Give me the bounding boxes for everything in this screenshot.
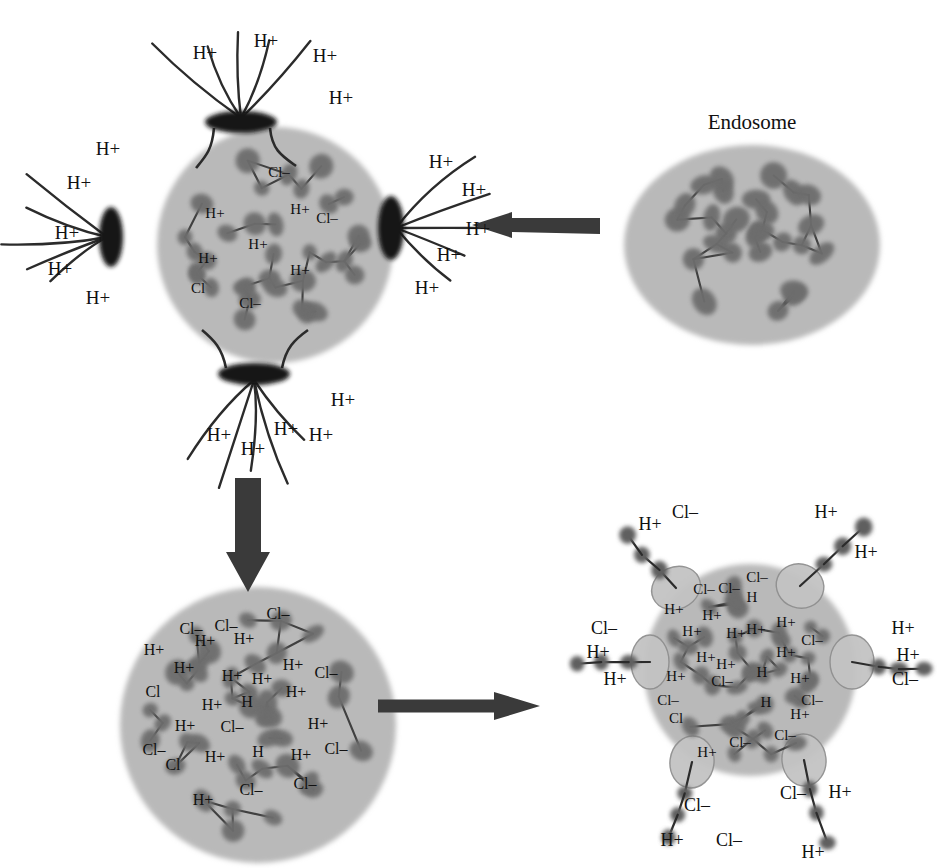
- ion-label-top-left-inner-7: Cl–: [239, 296, 261, 311]
- ion-label-ruptured-inner-10: Cl–: [801, 633, 823, 648]
- ion-label-ruptured-outer-3: H+: [854, 543, 877, 561]
- ion-label-ruptured-outer-7: H+: [891, 619, 914, 637]
- proton-label-top-left-17: H+: [309, 425, 333, 444]
- ion-label-ruptured-inner-19: H: [761, 695, 772, 710]
- ion-label-swollen-10: Cl–: [314, 665, 337, 681]
- ion-label-ruptured-inner-24: Cl–: [774, 728, 796, 743]
- ion-label-swollen-3: H+: [144, 642, 165, 658]
- channel-top-proton-line: [241, 41, 310, 118]
- ion-label-swollen-2: Cl–: [266, 606, 289, 622]
- ion-label-top-left-inner-3: H+: [290, 202, 309, 217]
- ion-label-ruptured-outer-10: Cl–: [684, 796, 710, 814]
- proton-label-top-left-5: H+: [67, 173, 91, 192]
- arrow-swollen-to-ruptured: [378, 692, 540, 720]
- ion-label-ruptured-inner-13: H+: [716, 657, 735, 672]
- ion-label-top-left-inner-6: H+: [290, 263, 309, 278]
- ion-label-ruptured-outer-12: Cl–: [716, 831, 742, 849]
- endosome-title: Endosome: [708, 110, 797, 135]
- ion-label-ruptured-inner-22: H+: [790, 707, 809, 722]
- ion-label-ruptured-outer-8: H+: [896, 646, 919, 664]
- ion-label-ruptured-outer-4: Cl–: [591, 619, 617, 637]
- channel-top: [205, 111, 277, 133]
- ion-label-swollen-25: Cl–: [293, 776, 316, 792]
- proton-label-top-left-8: H+: [86, 288, 110, 307]
- ion-label-swollen-6: H+: [174, 660, 195, 676]
- proton-label-top-left-3: H+: [329, 88, 353, 107]
- ion-label-swollen-5: H+: [234, 631, 255, 647]
- proton-label-top-left-1: H+: [254, 31, 278, 50]
- proton-label-top-left-4: H+: [96, 139, 120, 158]
- proton-label-top-left-7: H+: [48, 259, 72, 278]
- ion-label-swollen-21: H+: [291, 747, 312, 763]
- proton-label-top-left-12: H+: [437, 245, 461, 264]
- ion-label-ruptured-inner-12: H+: [696, 650, 715, 665]
- ion-label-swollen-12: Cl: [145, 684, 160, 700]
- ion-label-top-left-inner-0: Cl–: [268, 165, 290, 180]
- ion-label-ruptured-inner-25: H+: [697, 745, 716, 760]
- ion-label-ruptured-inner-11: H+: [776, 645, 795, 660]
- ion-label-swollen-23: Cl: [165, 757, 180, 773]
- arrow-polyplex-to-swollen-shape: [226, 478, 270, 592]
- ion-label-top-left-inner-5: H+: [198, 251, 217, 266]
- ion-label-swollen-11: H+: [286, 684, 307, 700]
- diagram-graphics: [0, 0, 950, 868]
- channel-right: [378, 196, 404, 260]
- ion-label-ruptured-outer-9: Cl–: [892, 670, 918, 688]
- ion-label-ruptured-inner-14: H+: [666, 669, 685, 684]
- ion-label-swollen-13: H+: [202, 697, 223, 713]
- ion-label-swollen-14: H: [241, 694, 253, 710]
- channel-top-proton-line: [237, 32, 241, 118]
- ion-label-swollen-4: H+: [195, 633, 216, 649]
- escape-chain-bead-2-3: [570, 656, 585, 671]
- proton-label-top-left-0: H+: [193, 43, 217, 62]
- arrow-endosome-to-polyplex-shape: [472, 212, 600, 238]
- channel-top-proton-line: [241, 40, 269, 118]
- ion-label-swollen-7: H+: [222, 668, 243, 684]
- proton-label-top-left-9: H+: [429, 152, 453, 171]
- ion-label-swollen-17: H+: [308, 716, 329, 732]
- ion-label-ruptured-inner-4: H+: [702, 608, 721, 623]
- arrow-polyplex-to-swollen: [226, 478, 270, 592]
- escape-chain-bead-1-3: [855, 518, 873, 537]
- ion-label-swollen-15: H+: [175, 718, 196, 734]
- ion-label-ruptured-inner-1: Cl–: [718, 581, 740, 596]
- arrow-swollen-to-ruptured-shape: [378, 692, 540, 720]
- ion-label-top-left-inner-2: H+: [205, 206, 224, 221]
- ion-label-swollen-9: H+: [283, 657, 304, 673]
- ion-label-swollen-20: H: [252, 744, 264, 760]
- ion-label-swollen-16: Cl–: [220, 719, 243, 735]
- ion-label-ruptured-inner-6: H+: [682, 624, 701, 639]
- proton-label-top-left-11: H+: [466, 219, 490, 238]
- ion-label-ruptured-outer-1: H+: [638, 515, 661, 533]
- ion-label-ruptured-outer-0: Cl–: [672, 503, 698, 521]
- figure-canvas: H+H+H+H+H+H+H+H+H+H+H+H+H+H+H+H+H+H+H+Cl…: [0, 0, 950, 868]
- ion-label-ruptured-inner-16: H: [757, 665, 768, 680]
- ion-label-ruptured-inner-3: H+: [664, 602, 683, 617]
- ion-label-swollen-22: Cl–: [324, 741, 347, 757]
- channel-left: [99, 207, 123, 267]
- ion-label-ruptured-outer-14: H+: [828, 783, 851, 801]
- ion-label-ruptured-outer-5: H+: [586, 643, 609, 661]
- ion-label-swollen-18: Cl–: [142, 742, 165, 758]
- channel-bottom: [218, 363, 290, 385]
- proton-label-top-left-10: H+: [462, 180, 486, 199]
- ion-label-ruptured-inner-5: H: [747, 590, 758, 605]
- ion-label-top-left-inner-4: H+: [248, 237, 267, 252]
- ion-label-swollen-8: H+: [252, 671, 273, 687]
- ion-label-ruptured-inner-7: H+: [726, 626, 745, 641]
- ion-label-ruptured-outer-13: Cl–: [780, 784, 806, 802]
- ion-label-ruptured-outer-6: H+: [603, 670, 626, 688]
- ion-label-top-left-inner-8: Cl: [191, 281, 205, 296]
- ion-label-swollen-24: Cl–: [239, 782, 262, 798]
- ion-label-ruptured-inner-17: H+: [790, 671, 809, 686]
- ion-label-ruptured-inner-15: Cl–: [711, 674, 733, 689]
- ion-label-ruptured-inner-21: Cl: [669, 711, 683, 726]
- proton-label-top-left-2: H+: [313, 46, 337, 65]
- ion-label-ruptured-inner-9: H+: [776, 615, 795, 630]
- ion-label-ruptured-outer-2: H+: [814, 503, 837, 521]
- proton-label-top-left-15: H+: [241, 439, 265, 458]
- ion-label-ruptured-inner-18: Cl–: [657, 693, 679, 708]
- ion-label-swollen-26: H+: [193, 792, 214, 808]
- ion-label-ruptured-inner-2: Cl–: [746, 570, 768, 585]
- ion-label-top-left-inner-1: Cl–: [316, 211, 338, 226]
